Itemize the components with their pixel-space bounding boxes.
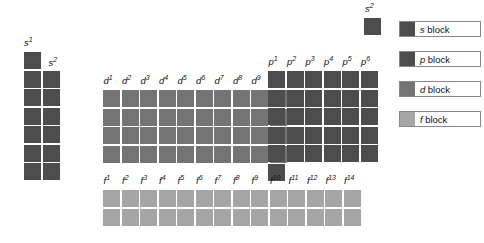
orbital-superscript: 13 bbox=[328, 174, 336, 181]
label-s-detached: s2 bbox=[365, 4, 374, 14]
p-block-cell bbox=[268, 108, 285, 125]
d-block-cell bbox=[103, 90, 120, 107]
label-s-column-1: s1 bbox=[24, 38, 33, 48]
orbital-superscript: 6 bbox=[199, 174, 203, 181]
d-block-cell bbox=[233, 90, 250, 107]
d-block-cell bbox=[159, 146, 176, 163]
legend-swatch-p-block bbox=[400, 52, 415, 66]
s-block-cell bbox=[43, 126, 60, 143]
d-block-cell bbox=[214, 127, 231, 144]
legend-orbital-letter: s bbox=[420, 24, 427, 35]
orbital-superscript: 6 bbox=[201, 74, 205, 81]
d-block-cell bbox=[251, 146, 268, 163]
label-f-column-9: f9 bbox=[252, 176, 259, 186]
d-block-cell bbox=[177, 90, 194, 107]
label-f-column-14: f14 bbox=[344, 176, 354, 186]
d-block-cell bbox=[251, 127, 268, 144]
orbital-superscript: 2 bbox=[292, 55, 296, 62]
d-block-cell bbox=[233, 146, 250, 163]
legend-label-d-block: dblock bbox=[415, 82, 480, 96]
s-block-cell bbox=[43, 71, 60, 88]
d-block-cell bbox=[159, 90, 176, 107]
p-block-cell bbox=[305, 127, 322, 144]
orbital-superscript: 4 bbox=[164, 74, 168, 81]
orbital-superscript: 1 bbox=[106, 174, 110, 181]
f-block-cell bbox=[122, 190, 139, 207]
legend-label-f-block: fblock bbox=[415, 112, 480, 126]
legend-item-d-block: dblock bbox=[399, 81, 481, 97]
p-block-cell bbox=[287, 145, 304, 162]
legend-label-p-block: pblock bbox=[415, 52, 480, 66]
label-f-column-4: f4 bbox=[159, 176, 166, 186]
p-block-cell bbox=[287, 71, 304, 88]
f-block-cell bbox=[140, 190, 157, 207]
f-block-cell bbox=[251, 190, 268, 207]
f-block-cell bbox=[196, 209, 213, 226]
legend-orbital-letter: p bbox=[420, 54, 428, 65]
d-block-cell bbox=[122, 146, 139, 163]
p-block-cell bbox=[324, 90, 341, 107]
label-f-column-13: f13 bbox=[326, 176, 336, 186]
d-block-cell bbox=[140, 109, 157, 126]
d-block-cell bbox=[103, 109, 120, 126]
orbital-superscript: 1 bbox=[274, 55, 278, 62]
f-block-cell bbox=[344, 190, 361, 207]
s-block-cell bbox=[43, 163, 60, 180]
f-block-cell bbox=[103, 190, 120, 207]
legend-item-f-block: fblock bbox=[399, 111, 481, 127]
label-f-column-10: f10 bbox=[270, 176, 280, 186]
label-d-column-5: d5 bbox=[178, 76, 187, 86]
orbital-superscript: 11 bbox=[291, 174, 298, 181]
f-block-cell bbox=[233, 190, 250, 207]
d-block-cell bbox=[177, 109, 194, 126]
d-block-cell bbox=[140, 90, 157, 107]
f-block-cell bbox=[177, 209, 194, 226]
label-f-column-3: f3 bbox=[141, 176, 148, 186]
d-block-cell bbox=[214, 90, 231, 107]
s-block-cell bbox=[43, 89, 60, 106]
label-d-column-3: d3 bbox=[141, 76, 150, 86]
label-p-column-1: p1 bbox=[269, 57, 278, 67]
s-block-cell bbox=[43, 108, 60, 125]
d-block-cell bbox=[122, 127, 139, 144]
s-block-cell bbox=[24, 71, 41, 88]
s-block-cell bbox=[24, 108, 41, 125]
p-block-cell bbox=[287, 90, 304, 107]
label-f-column-6: f6 bbox=[196, 176, 203, 186]
d-block-cell bbox=[251, 109, 268, 126]
s-block-cell bbox=[24, 163, 41, 180]
p-block-cell bbox=[324, 145, 341, 162]
p-block-cell bbox=[287, 127, 304, 144]
f-block-cell bbox=[159, 190, 176, 207]
f-block-cell bbox=[103, 209, 120, 226]
legend-word-block: block bbox=[427, 24, 449, 35]
orbital-superscript: 8 bbox=[238, 74, 242, 81]
p-block-cell bbox=[361, 108, 378, 125]
s-block-cell bbox=[24, 145, 41, 162]
orbital-superscript: 10 bbox=[273, 174, 281, 181]
label-d-column-4: d4 bbox=[159, 76, 168, 86]
p-block-cell bbox=[324, 127, 341, 144]
d-block-cell bbox=[122, 109, 139, 126]
legend-swatch-s-block bbox=[400, 22, 415, 36]
f-block-cell bbox=[140, 209, 157, 226]
label-d-column-7: d7 bbox=[215, 76, 224, 86]
p-block-cell bbox=[342, 145, 359, 162]
orbital-superscript: 14 bbox=[347, 174, 355, 181]
p-block-cell bbox=[268, 90, 285, 107]
p-block-cell bbox=[361, 145, 378, 162]
p-block-cell bbox=[342, 108, 359, 125]
orbital-superscript: 12 bbox=[310, 174, 318, 181]
p-block-cell bbox=[361, 127, 378, 144]
label-p-column-4: p4 bbox=[324, 57, 333, 67]
d-block-cell bbox=[196, 127, 213, 144]
p-block-cell bbox=[361, 71, 378, 88]
d-block-cell bbox=[140, 127, 157, 144]
label-f-column-1: f1 bbox=[104, 176, 111, 186]
orbital-superscript: 8 bbox=[236, 174, 240, 181]
orbital-superscript: 5 bbox=[180, 174, 184, 181]
f-block-cell bbox=[344, 209, 361, 226]
p-block-cell bbox=[287, 108, 304, 125]
d-block-cell bbox=[214, 146, 231, 163]
label-f-column-2: f2 bbox=[122, 176, 129, 186]
